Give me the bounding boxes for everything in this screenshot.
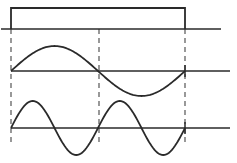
pulse-outline xyxy=(11,8,185,29)
waveform-diagram xyxy=(0,0,237,163)
rectangular-pulse xyxy=(1,8,221,29)
sine-waves xyxy=(11,46,230,155)
diagram-canvas: Rectangular pulse with fundamental and s… xyxy=(0,0,237,163)
dashed-guide-lines xyxy=(11,29,185,143)
